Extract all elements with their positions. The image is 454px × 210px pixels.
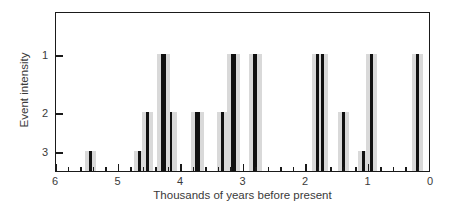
bar xyxy=(163,54,166,171)
bar xyxy=(221,112,224,171)
x-axis-minor-tick xyxy=(293,167,294,171)
y-axis-tick xyxy=(56,55,63,57)
x-axis-tick xyxy=(180,164,182,171)
bar xyxy=(197,112,200,171)
y-axis-tick xyxy=(56,152,63,154)
x-axis-minor-tick xyxy=(130,167,131,171)
x-axis-tick xyxy=(118,164,120,171)
bar xyxy=(89,151,92,171)
x-axis-minor-tick xyxy=(205,167,206,171)
y-axis-tick-label: 3 xyxy=(36,146,48,158)
x-axis-minor-tick xyxy=(155,167,156,171)
x-axis-minor-tick xyxy=(218,167,219,171)
x-axis-minor-tick xyxy=(393,167,394,171)
x-axis-tick-label: 3 xyxy=(233,175,253,187)
x-axis-minor-tick xyxy=(255,167,256,171)
x-axis-minor-tick xyxy=(318,167,319,171)
x-axis-minor-tick xyxy=(143,167,144,171)
bar xyxy=(146,112,149,171)
x-axis-minor-tick xyxy=(355,167,356,171)
y-axis-title: Event intensity xyxy=(18,20,30,160)
x-axis-tick-label: 6 xyxy=(45,175,65,187)
x-axis-tick-label: 0 xyxy=(420,175,440,187)
x-axis-tick xyxy=(368,164,370,171)
x-axis-tick xyxy=(243,164,245,171)
x-axis-tick-label: 1 xyxy=(358,175,378,187)
chart-root: Thousands of years before present Event … xyxy=(0,0,454,210)
bar xyxy=(370,54,373,171)
x-axis-minor-tick xyxy=(418,167,419,171)
x-axis-tick xyxy=(56,164,57,171)
x-axis-tick-label: 2 xyxy=(295,175,315,187)
y-axis-tick xyxy=(56,113,63,115)
plot-area xyxy=(56,13,429,171)
plot-frame xyxy=(55,12,430,172)
x-axis-minor-tick xyxy=(230,167,231,171)
x-axis-minor-tick xyxy=(93,167,94,171)
x-axis-tick-label: 5 xyxy=(108,175,128,187)
x-axis-minor-tick xyxy=(168,167,169,171)
x-axis-minor-tick xyxy=(193,167,194,171)
y-axis-tick-label: 2 xyxy=(36,107,48,119)
bar xyxy=(233,54,236,171)
bar xyxy=(362,151,365,171)
x-axis-minor-tick xyxy=(80,167,81,171)
bar xyxy=(170,112,173,171)
x-axis-minor-tick xyxy=(280,167,281,171)
x-axis-minor-tick xyxy=(68,167,69,171)
bar xyxy=(416,54,419,171)
x-axis-minor-tick xyxy=(105,167,106,171)
x-axis-minor-tick xyxy=(380,167,381,171)
x-axis-tick-label: 4 xyxy=(170,175,190,187)
x-axis-minor-tick xyxy=(405,167,406,171)
x-axis-minor-tick xyxy=(343,167,344,171)
bar xyxy=(342,112,345,171)
x-axis-tick xyxy=(305,164,307,171)
bar xyxy=(255,54,258,171)
x-axis-title: Thousands of years before present xyxy=(55,189,430,201)
x-axis-minor-tick xyxy=(330,167,331,171)
bar xyxy=(138,151,141,171)
bar xyxy=(321,54,324,171)
y-axis-tick-label: 1 xyxy=(36,49,48,61)
bar xyxy=(316,54,319,171)
x-axis-minor-tick xyxy=(268,167,269,171)
